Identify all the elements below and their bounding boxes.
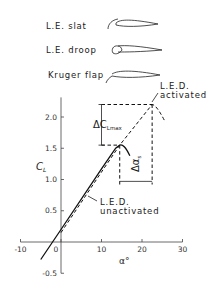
tick-labels: -100102030-0.50.51.01.52.0 bbox=[14, 113, 187, 278]
kruger-airfoil-icon bbox=[106, 71, 160, 83]
y-tick-label: 0.5 bbox=[45, 206, 57, 215]
y-tick-label: 2.0 bbox=[45, 113, 57, 122]
delta-clmax-label: ΔCLmax bbox=[93, 119, 123, 131]
x-axis-label: α° bbox=[119, 256, 129, 266]
x-tick-label: 20 bbox=[137, 245, 147, 254]
droop-airfoil-icon bbox=[112, 46, 162, 54]
y-tick-label: -0.5 bbox=[42, 269, 57, 278]
figure: L.E. slat L.E. droop Kruger flap -100102… bbox=[0, 0, 216, 294]
delta-guides bbox=[99, 105, 153, 185]
unactivated-leader-line bbox=[88, 196, 97, 201]
activated-leader-line bbox=[152, 93, 158, 102]
legend-label-kruger: Kruger flap bbox=[48, 70, 104, 80]
y-axis-label: CL bbox=[36, 161, 46, 173]
delta-alpha-label: Δαs bbox=[130, 156, 142, 172]
unactivated-label-line2: unactivated bbox=[100, 206, 159, 216]
legend-label-droop: L.E. droop bbox=[46, 45, 97, 55]
x-tick-label: 30 bbox=[178, 245, 188, 254]
activated-label-line2: activated bbox=[160, 90, 207, 100]
y-tick-label: 1.5 bbox=[45, 144, 57, 153]
y-tick-label: 1.0 bbox=[45, 175, 57, 184]
x-tick-label: 10 bbox=[97, 245, 107, 254]
legend-label-slat: L.E. slat bbox=[46, 21, 87, 31]
x-tick-label: -10 bbox=[14, 245, 26, 254]
x-tick-label: 0 bbox=[54, 245, 59, 254]
slat-airfoil-icon bbox=[108, 19, 158, 29]
